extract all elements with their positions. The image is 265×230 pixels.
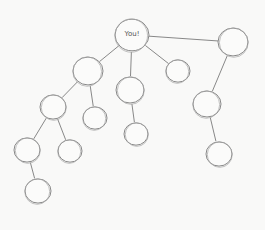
tree-diagram: You! <box>0 0 265 230</box>
edge-root-n4 <box>145 45 168 63</box>
edge-root-n3 <box>131 52 132 76</box>
edge-n2-n5 <box>62 82 77 98</box>
edge-n9-n12 <box>30 163 34 179</box>
tree-node <box>25 179 51 204</box>
tree-node <box>206 142 232 167</box>
tree-node <box>73 57 103 86</box>
edge-n8-n11 <box>210 118 216 142</box>
tree-node <box>40 95 66 120</box>
tree-node <box>83 107 107 131</box>
tree-node <box>116 77 144 104</box>
tree-node <box>193 91 221 118</box>
tree-node <box>58 140 82 164</box>
edge-n5-n9 <box>34 118 47 139</box>
edge-n3-n7 <box>132 104 134 122</box>
tree-node <box>124 123 148 147</box>
edge-root-n2 <box>100 46 119 62</box>
tree-node <box>166 60 190 84</box>
tree-node <box>218 28 248 57</box>
edge-n5-n10 <box>58 119 66 140</box>
edge-n1-n8 <box>212 56 227 91</box>
edge-n2-n6 <box>90 86 93 106</box>
root-node-label: You! <box>125 30 140 38</box>
tree-node <box>14 138 40 163</box>
edge-root-n1 <box>149 36 218 41</box>
